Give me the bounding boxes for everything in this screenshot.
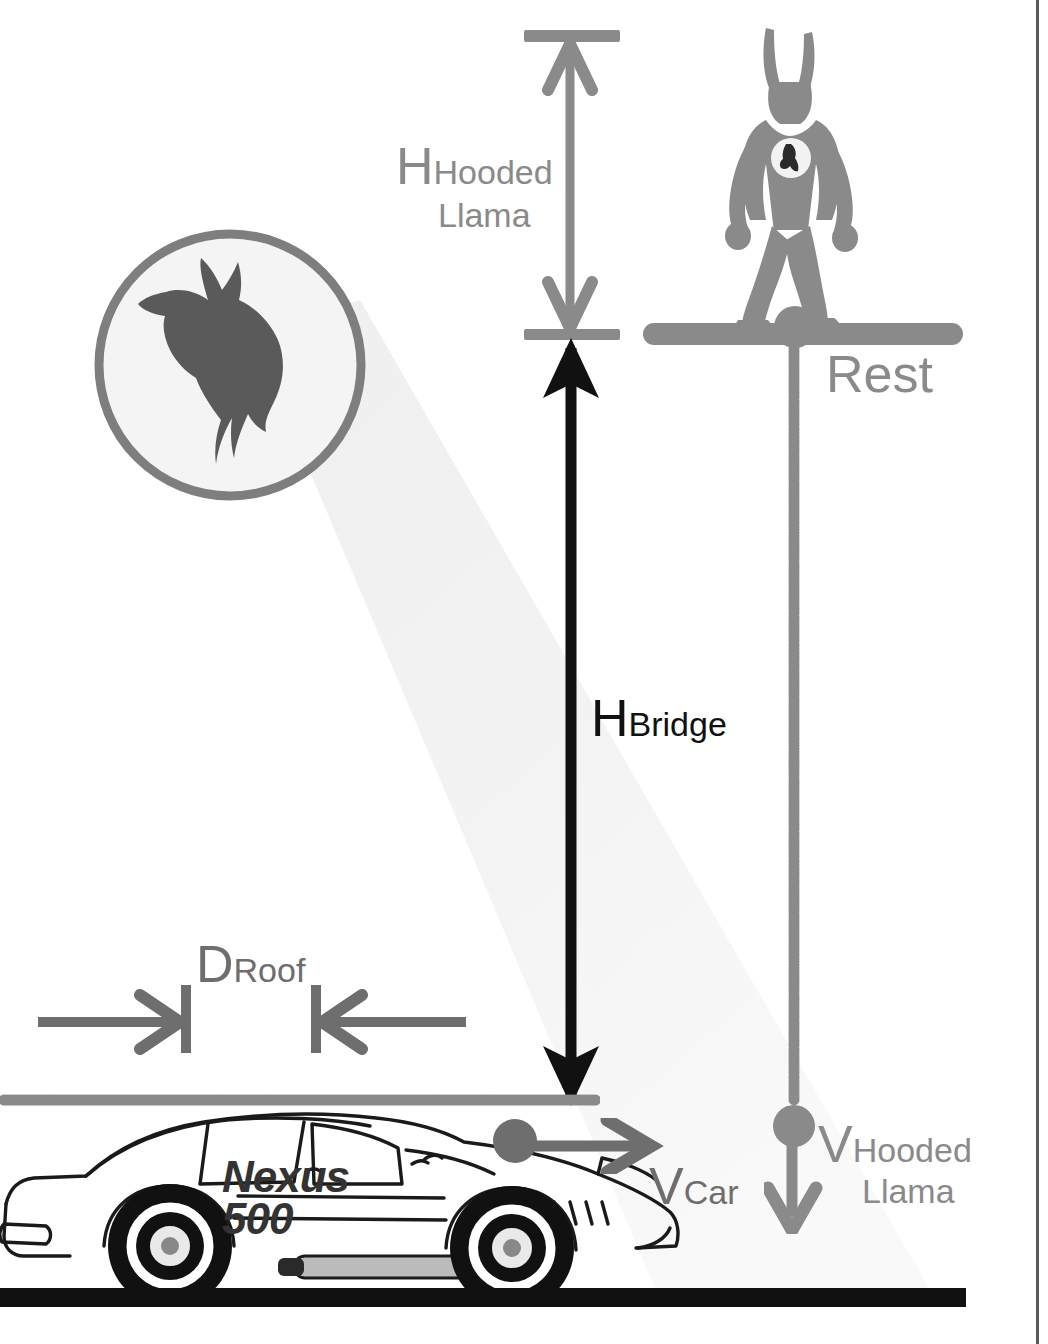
hooded-llama-superhero-figure bbox=[700, 20, 880, 338]
label-v-car-symbol: V bbox=[649, 1157, 684, 1215]
label-h-hooded-llama-symbol: H bbox=[396, 137, 434, 195]
label-h-bridge-symbol: H bbox=[591, 689, 629, 747]
label-h-bridge-sub: Bridge bbox=[629, 705, 727, 743]
label-v-hooded-llama-sub1: Hooded bbox=[853, 1131, 972, 1169]
v-hooded-llama-velocity-arrow bbox=[764, 1104, 824, 1234]
v-car-velocity-arrow bbox=[495, 1118, 665, 1174]
label-v-car: VCar bbox=[649, 1160, 738, 1212]
label-h-hooded-llama: HHooded Llama bbox=[396, 140, 553, 232]
label-d-roof-sub: Roof bbox=[234, 951, 306, 989]
car-brand-text: Nexus 500 bbox=[222, 1156, 349, 1240]
label-v-hooded-llama-sub2: Llama bbox=[862, 1174, 972, 1208]
label-d-roof: DRoof bbox=[196, 938, 305, 990]
car-brand-line1: Nexus bbox=[222, 1156, 349, 1198]
label-rest: Rest bbox=[826, 348, 933, 400]
vertical-drop-dotted-line bbox=[786, 345, 802, 1105]
label-v-car-sub: Car bbox=[684, 1173, 739, 1211]
label-h-hooded-llama-sub1: Hooded bbox=[434, 153, 553, 191]
llama-head-signal-logo bbox=[88, 222, 372, 508]
label-d-roof-symbol: D bbox=[196, 935, 234, 993]
ground-line bbox=[0, 1288, 966, 1307]
page-border-line bbox=[1036, 0, 1039, 1344]
physics-diagram-canvas: HHooded Llama bbox=[0, 0, 1048, 1344]
label-v-hooded-llama-symbol: V bbox=[818, 1115, 853, 1173]
label-h-bridge: HBridge bbox=[591, 692, 727, 744]
label-h-hooded-llama-sub2: Llama bbox=[438, 198, 553, 232]
label-rest-text: Rest bbox=[826, 345, 933, 403]
label-v-hooded-llama: VHooded Llama bbox=[818, 1118, 972, 1208]
car-brand-line2: 500 bbox=[222, 1198, 349, 1240]
